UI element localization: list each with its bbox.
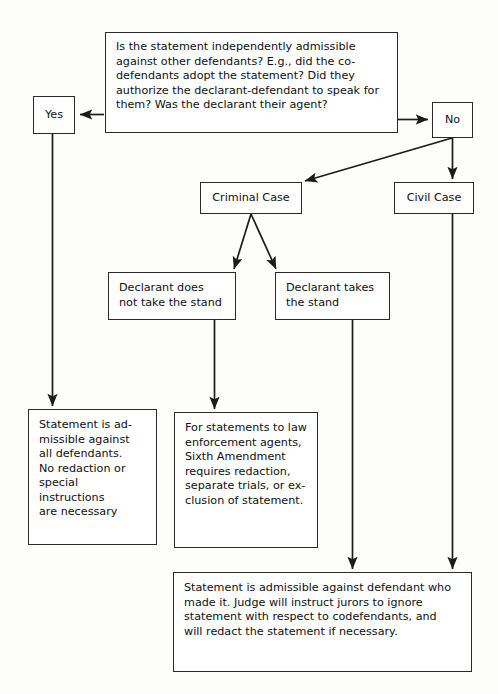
node-declarant-does-not-take-stand-label: Declarant does not take the stand (119, 281, 226, 310)
node-result-limiting-instruction[interactable]: Statement is admissible against defendan… (173, 572, 472, 672)
node-question-label: Is the statement independently admissibl… (116, 40, 388, 113)
edge-criminal-to-takes-stand (251, 214, 276, 269)
node-declarant-takes-stand[interactable]: Declarant takes the stand (275, 272, 390, 320)
node-result-sixth-amendment-label: For statements to law enforcement agents… (185, 421, 308, 508)
node-result-limiting-instruction-label: Statement is admissible against defendan… (184, 581, 462, 639)
node-criminal-case[interactable]: Criminal Case (200, 182, 302, 214)
node-result-admissible-all-defendants-label: Statement is ad- missible against all de… (39, 418, 147, 520)
node-criminal-case-label: Criminal Case (212, 191, 290, 206)
edge-no-to-criminal (305, 138, 452, 181)
node-no-label: No (445, 113, 460, 128)
node-yes[interactable]: Yes (33, 96, 75, 134)
node-yes-label: Yes (45, 108, 63, 123)
node-no[interactable]: No (432, 102, 473, 138)
node-declarant-takes-stand-label: Declarant takes the stand (286, 281, 380, 310)
node-declarant-does-not-take-stand[interactable]: Declarant does not take the stand (108, 272, 236, 320)
edge-criminal-to-no-stand (234, 214, 251, 269)
node-civil-case[interactable]: Civil Case (394, 182, 474, 214)
node-civil-case-label: Civil Case (407, 191, 462, 206)
page-title-clipped (0, 0, 498, 9)
node-question[interactable]: Is the statement independently admissibl… (105, 32, 398, 133)
node-result-sixth-amendment[interactable]: For statements to law enforcement agents… (174, 412, 318, 548)
flowchart-page: Is the statement independently admissibl… (0, 0, 498, 694)
node-result-admissible-all-defendants[interactable]: Statement is ad- missible against all de… (28, 409, 157, 545)
